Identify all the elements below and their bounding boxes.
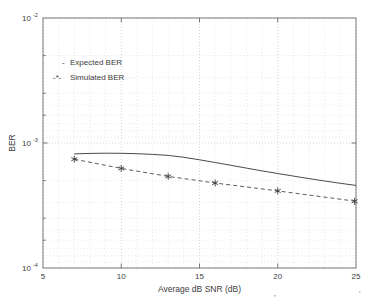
y-tick-bot-exponent: -4 [33,262,38,268]
x-tick-label-25: 25 [352,272,361,281]
figure-canvas: 10 -2 10 -3 10 -4 5 10 15 20 25 Average … [0,0,374,300]
scan-artifact [359,291,361,293]
y-tick-bot-mantissa: 10 [22,264,31,273]
y-tick-label-mid: 10 -3 [22,137,38,149]
scan-artifact [274,295,276,297]
x-tick-label-15: 15 [195,272,204,281]
y-tick-mid-mantissa: 10 [22,139,31,148]
legend-label-simulated: Simulated BER [70,73,124,82]
legend-label-expected: Expected BER [70,58,122,67]
y-tick-mid-exponent: -3 [33,137,38,143]
x-tick-label-20: 20 [273,272,282,281]
x-tick-label-5: 5 [41,272,46,281]
y-axis-label: BER [7,134,17,151]
legend-symbol-expected: - [62,58,65,67]
x-axis-label: Average dB SNR (dB) [158,284,241,294]
y-tick-label-bottom: 10 -4 [22,262,38,274]
legend-symbol-simulated: -*- [53,73,62,82]
y-tick-top-mantissa: 10 [22,14,31,23]
y-tick-top-exponent: -2 [33,12,38,18]
y-tick-label-top: 10 -2 [22,12,38,24]
ber-semilog-plot: 10 -2 10 -3 10 -4 5 10 15 20 25 Average … [0,0,374,300]
x-tick-label-10: 10 [117,272,126,281]
